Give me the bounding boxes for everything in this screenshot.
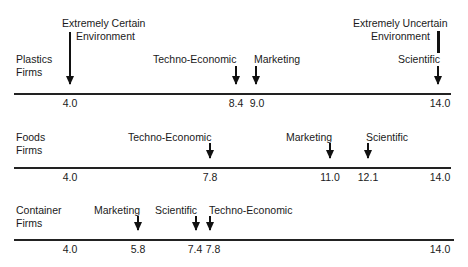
tick-label: 14.0	[430, 97, 450, 109]
marker-label-techno-economic: Techno-Economic	[153, 53, 236, 65]
row-label-foods: Foods Firms	[16, 131, 45, 157]
marker-label-scientific: Scientific	[398, 53, 440, 65]
marker-label-techno-economic: Techno-Economic	[209, 204, 292, 216]
row-label-container: Container Firms	[16, 204, 62, 230]
extremely-uncertain-label-line2: Environment	[371, 30, 430, 42]
tick-label: 14.0	[430, 171, 450, 183]
tick-label: 4.0	[63, 243, 78, 255]
scale-line-container	[14, 239, 454, 241]
tick-label: 7.8	[206, 243, 221, 255]
tick-label: 7.8	[203, 171, 218, 183]
tick-label: 7.4	[188, 243, 203, 255]
tick-label: 4.0	[63, 97, 78, 109]
uncertain-environment-bar-icon	[437, 31, 440, 53]
extremely-certain-label-line2: Environment	[76, 30, 135, 42]
marker-label-marketing: Marketing	[254, 53, 300, 65]
marker-label-techno-economic: Techno-Economic	[128, 131, 211, 143]
tick-label: 14.0	[430, 243, 450, 255]
marker-label-scientific: Scientific	[155, 204, 197, 216]
extremely-certain-label-line1: Extremely Certain	[62, 17, 145, 29]
tick-label: 4.0	[63, 171, 78, 183]
tick-label: 12.1	[358, 171, 378, 183]
certain-environment-arrow-icon	[69, 32, 71, 84]
scale-line-plastics	[14, 93, 451, 95]
marker-label-scientific: Scientific	[366, 131, 408, 143]
arrow-down-icon	[195, 216, 197, 230]
arrow-down-icon	[209, 216, 211, 230]
tick-label: 11.0	[320, 171, 340, 183]
marker-label-marketing: Marketing	[94, 204, 140, 216]
arrow-down-icon	[329, 143, 331, 158]
arrow-down-icon	[437, 66, 439, 84]
extremely-uncertain-label-line1: Extremely Uncertain	[353, 17, 448, 29]
arrow-down-icon	[235, 66, 237, 84]
arrow-down-icon	[137, 216, 139, 230]
tick-label: 9.0	[250, 97, 265, 109]
marker-label-marketing: Marketing	[286, 131, 332, 143]
arrow-down-icon	[209, 143, 211, 158]
arrow-down-icon	[367, 143, 369, 158]
arrow-down-icon	[255, 66, 257, 84]
row-label-plastics: Plastics Firms	[16, 53, 52, 79]
tick-label: 8.4	[229, 97, 244, 109]
scale-line-foods	[14, 167, 451, 169]
tick-label: 5.8	[131, 243, 146, 255]
